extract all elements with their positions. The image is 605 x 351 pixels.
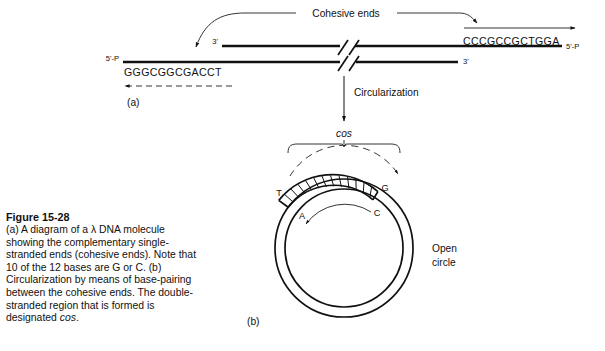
base-label-A: A (299, 211, 306, 221)
break-slash-bottom-a (338, 56, 348, 71)
figure-caption-body: (a) A diagram of a λ DNA molecule showin… (6, 224, 202, 325)
bottom-strand-3prime-label: 3' (463, 57, 469, 66)
circularization-label: Circularization (354, 87, 419, 98)
ladder-cap-left (279, 200, 288, 207)
caption-part-2: DNA molecule showing the complementary s… (6, 224, 196, 323)
open-circle-label-line2: circle (432, 257, 456, 268)
dna-inner-circle (285, 189, 403, 307)
caption-part-3: . (76, 312, 79, 323)
cos-dashed-strand-arc (290, 145, 398, 176)
figure-caption: Figure 15-28 (a) A diagram of a λ DNA mo… (6, 211, 202, 325)
base-label-C: C (374, 208, 381, 218)
ladder-outer-arc (279, 175, 378, 201)
base-label-T: T (276, 188, 282, 198)
top-strand-3prime-label: 3' (212, 37, 218, 46)
cohesive-ends-annotation: Cohesive ends (196, 8, 477, 47)
cohesive-ends-label: Cohesive ends (312, 8, 379, 19)
caption-part-1: (a) A diagram of a (6, 224, 91, 235)
right-5prime-p-label: 5'-P (566, 42, 579, 51)
break-slash-bottom-b (349, 56, 359, 71)
panel-a-label: (a) (127, 97, 139, 108)
figure-15-28: Cohesive ends CCCGCCGCTGGA 3' 5'-P 5'-P … (0, 0, 605, 351)
base-label-G: G (381, 183, 388, 193)
open-circle-label-line1: Open (432, 243, 457, 254)
break-slash-top-b (349, 40, 359, 55)
panel-b-label: (b) (247, 316, 259, 327)
cohesive-ends-arrow-left (196, 13, 245, 47)
left-5prime-p-label: 5'-P (106, 54, 119, 63)
figure-caption-title: Figure 15-28 (6, 211, 202, 224)
cos-label: cos (336, 128, 352, 139)
caption-cos-term: cos (60, 312, 76, 323)
left-cohesive-sequence: GGGCGGCGACCT (124, 66, 222, 78)
cohesive-ends-arrow-right (459, 13, 477, 23)
inner-strand-direction-arrow (306, 204, 371, 224)
break-slash-top-a (338, 40, 348, 55)
cos-bracket (288, 140, 400, 153)
